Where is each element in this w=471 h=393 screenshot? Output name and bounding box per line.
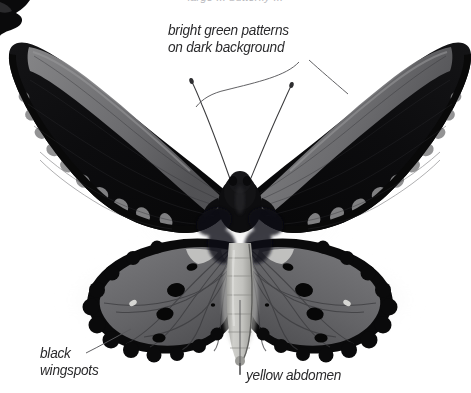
annotated-butterfly-figure: large ... butterfly ... <box>0 0 471 393</box>
annotation-yellow-abdomen: yellow abdomen <box>246 367 341 384</box>
right-forewing <box>248 42 471 233</box>
annotation-green-line2: on dark background <box>168 39 289 56</box>
annotation-black-wingspots: black wingspots <box>40 345 99 378</box>
annotation-black-line1: black <box>40 345 99 362</box>
leader-green-to-left-forewing <box>196 62 299 107</box>
annotation-green-line1: bright green patterns <box>168 22 289 39</box>
annotation-black-line2: wingspots <box>40 362 99 379</box>
annotation-green-patterns: bright green patterns on dark background <box>168 22 289 55</box>
antennae-clubs <box>189 77 295 88</box>
annotation-yellow-line1: yellow abdomen <box>246 367 341 384</box>
left-forewing <box>9 42 232 233</box>
corner-wing-fragment <box>0 0 30 36</box>
leader-green-to-right-forewing <box>309 60 348 94</box>
butterfly-illustration <box>0 0 471 393</box>
